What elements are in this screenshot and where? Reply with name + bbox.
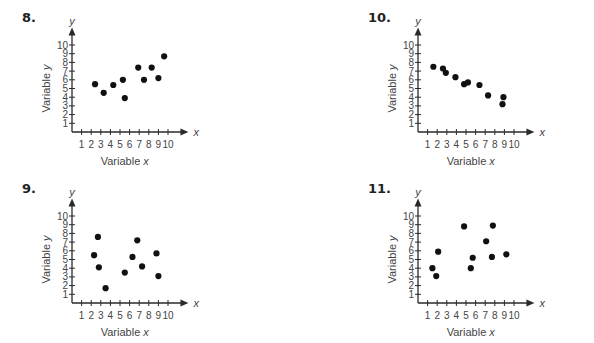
y-axis-title: Variable y (40, 234, 52, 284)
problem-number: 10. (368, 10, 391, 25)
x-tick-label: 4 (108, 310, 114, 321)
plot-svg: 1234567891012345678910xyVariable xVariab… (346, 171, 546, 341)
x-axis-letter: x (538, 297, 545, 309)
data-point (134, 237, 140, 243)
y-axis-title: Variable y (386, 234, 398, 284)
y-axis-title: Variable y (386, 63, 398, 113)
x-tick-label: 6 (127, 139, 133, 150)
y-axis-letter: y (414, 15, 422, 27)
y-arrow-icon (415, 28, 422, 36)
y-arrow-icon (69, 199, 76, 207)
x-tick-label: 3 (444, 139, 450, 150)
data-point (461, 223, 467, 229)
data-point (120, 77, 126, 83)
x-tick-label: 8 (492, 139, 498, 150)
data-point (92, 81, 98, 87)
x-axis-title: Variable x (447, 326, 496, 338)
problem-number: 8. (22, 10, 36, 25)
data-point (452, 74, 458, 80)
x-tick-label: 10 (162, 310, 174, 321)
x-tick-label: 5 (117, 139, 123, 150)
x-arrow-icon (180, 129, 188, 136)
x-axis-title: Variable x (101, 326, 150, 338)
x-tick-label: 2 (88, 310, 94, 321)
data-point (129, 254, 135, 260)
data-point (139, 263, 145, 269)
scatter-plot-8: 8. 1234567891012345678910xyVariable xVar… (0, 0, 200, 170)
data-point (468, 265, 474, 271)
x-tick-label: 2 (434, 139, 440, 150)
y-axis-title: Variable y (40, 63, 52, 113)
x-axis-title: Variable x (101, 155, 150, 167)
x-tick-label: 10 (162, 139, 174, 150)
data-point (483, 238, 489, 244)
x-tick-label: 5 (463, 139, 469, 150)
x-tick-label: 3 (98, 139, 104, 150)
data-point (490, 222, 496, 228)
scatter-plot-10: 10. 1234567891012345678910xyVariable xVa… (346, 0, 546, 170)
data-point (470, 255, 476, 261)
data-point (122, 95, 128, 101)
x-tick-label: 2 (434, 310, 440, 321)
y-axis-letter: y (68, 186, 76, 198)
y-tick-label: 10 (403, 211, 415, 222)
plot-svg: 1234567891012345678910xyVariable xVariab… (346, 0, 546, 170)
x-tick-label: 4 (454, 139, 460, 150)
x-tick-label: 8 (146, 139, 152, 150)
x-tick-label: 4 (454, 310, 460, 321)
x-tick-label: 9 (502, 139, 508, 150)
x-tick-label: 8 (146, 310, 152, 321)
x-tick-label: 5 (117, 310, 123, 321)
x-arrow-icon (526, 300, 534, 307)
x-tick-label: 9 (502, 310, 508, 321)
data-point (149, 65, 155, 71)
x-tick-label: 9 (156, 310, 162, 321)
y-tick-label: 10 (57, 40, 69, 51)
x-tick-label: 7 (482, 310, 488, 321)
x-tick-label: 6 (473, 139, 479, 150)
x-axis-letter: x (192, 297, 199, 309)
data-point (103, 285, 109, 291)
x-tick-label: 2 (88, 139, 94, 150)
scatter-plot-9: 9. 1234567891012345678910xyVariable xVar… (0, 171, 200, 341)
data-point (161, 53, 167, 59)
data-point (430, 64, 436, 70)
y-axis-letter: y (414, 186, 422, 198)
x-tick-label: 9 (156, 139, 162, 150)
x-tick-label: 6 (473, 310, 479, 321)
data-point (122, 269, 128, 275)
y-tick-label: 10 (403, 40, 415, 51)
x-arrow-icon (180, 300, 188, 307)
x-tick-label: 5 (463, 310, 469, 321)
plot-svg: 1234567891012345678910xyVariable xVariab… (0, 171, 200, 341)
y-arrow-icon (415, 199, 422, 207)
data-point (485, 92, 491, 98)
data-point (101, 90, 107, 96)
y-axis-letter: y (68, 15, 76, 27)
x-tick-label: 1 (425, 139, 431, 150)
y-tick-label: 10 (57, 211, 69, 222)
plot-svg: 1234567891012345678910xyVariable xVariab… (0, 0, 200, 170)
data-point (429, 265, 435, 271)
data-point (489, 254, 495, 260)
x-arrow-icon (526, 129, 534, 136)
data-point (443, 70, 449, 76)
data-point (141, 77, 147, 83)
data-point (435, 249, 441, 255)
data-point (96, 264, 102, 270)
x-axis-letter: x (538, 126, 545, 138)
x-tick-label: 1 (79, 310, 85, 321)
x-tick-label: 7 (136, 310, 142, 321)
x-tick-label: 4 (108, 139, 114, 150)
data-point (110, 82, 116, 88)
data-point (476, 82, 482, 88)
data-point (503, 251, 509, 257)
data-point (433, 273, 439, 279)
data-point (500, 94, 506, 100)
x-tick-label: 3 (444, 310, 450, 321)
scatter-plot-11: 11. 1234567891012345678910xyVariable xVa… (346, 171, 546, 341)
x-tick-label: 10 (508, 310, 520, 321)
x-tick-label: 7 (482, 139, 488, 150)
y-arrow-icon (69, 28, 76, 36)
data-point (465, 79, 471, 85)
